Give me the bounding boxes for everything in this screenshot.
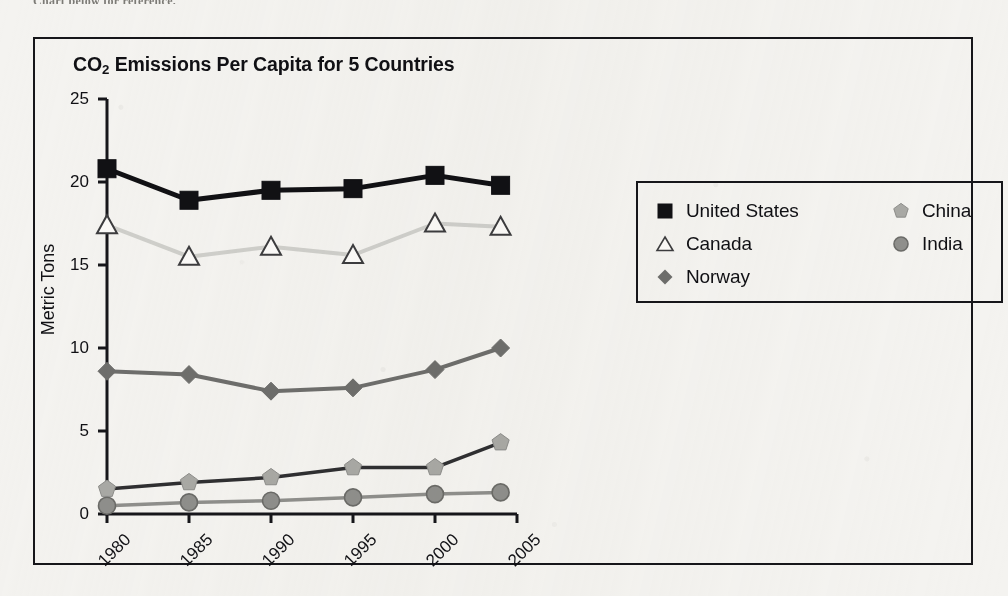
chart-legend: United StatesCanadaNorway ChinaIndia: [636, 181, 1003, 303]
data-point-marker: [262, 181, 280, 199]
legend-item-label: China: [922, 200, 971, 222]
square-marker-icon: [262, 181, 280, 199]
y-axis-tick-label: 10: [70, 338, 89, 358]
circle-marker-icon: [263, 492, 280, 509]
data-point-marker: [180, 366, 198, 384]
data-point-marker: [181, 494, 198, 511]
filled-square-marker-icon: [654, 200, 676, 222]
data-point-marker: [345, 489, 362, 506]
series-markers-china: [98, 434, 509, 497]
circle-marker-icon: [181, 494, 198, 511]
legend-column-right: ChinaIndia: [890, 194, 971, 260]
data-point-marker: [180, 473, 197, 489]
data-point-marker: [97, 215, 117, 233]
data-point-marker: [344, 459, 361, 475]
legend-column-left: United StatesCanadaNorway: [654, 194, 799, 293]
triangle-marker-icon: [97, 215, 117, 233]
data-point-marker: [263, 492, 280, 509]
square-marker-icon: [426, 166, 444, 184]
data-point-marker: [99, 497, 116, 514]
legend-item-label: Canada: [686, 233, 752, 255]
chart-axes: [107, 99, 517, 514]
diamond-marker-icon: [492, 339, 510, 357]
pentagon-marker-icon: [262, 468, 279, 484]
diamond-marker-icon: [426, 361, 444, 379]
y-axis-tick-label: 20: [70, 172, 89, 192]
y-axis-tick-label: 0: [80, 504, 89, 524]
data-point-marker: [426, 166, 444, 184]
y-axis-tick-label: 15: [70, 255, 89, 275]
diamond-marker-icon: [262, 382, 280, 400]
pentagon-marker-icon: [344, 459, 361, 475]
diamond-marker-icon: [344, 379, 362, 397]
circle-marker-icon: [427, 486, 444, 503]
series-markers-canada: [97, 214, 511, 265]
scanned-page: Chart below for reference. CO2 Emissions…: [0, 0, 1008, 596]
legend-item-label: India: [922, 233, 963, 255]
filled-circle-marker-icon: [890, 233, 912, 255]
data-point-marker: [98, 362, 116, 380]
legend-item: India: [890, 227, 971, 260]
series-markers-united-states: [98, 160, 510, 210]
filled-diamond-marker-icon: [654, 266, 676, 288]
legend-item: Norway: [654, 260, 799, 293]
data-point-marker: [344, 180, 362, 198]
chart-plot-area: [35, 39, 975, 567]
chart-outer-frame: CO2 Emissions Per Capita for 5 Countries…: [33, 37, 973, 565]
y-axis-tick-label: 25: [70, 89, 89, 109]
data-point-marker: [426, 361, 444, 379]
legend-item: China: [890, 194, 971, 227]
data-point-marker: [492, 176, 510, 194]
pentagon-marker-icon: [492, 434, 509, 450]
circle-marker-icon: [99, 497, 116, 514]
diamond-marker-icon: [180, 366, 198, 384]
data-point-marker: [98, 160, 116, 178]
pentagon-marker-icon: [180, 473, 197, 489]
filled-pentagon-marker-icon: [890, 200, 912, 222]
pentagon-marker-icon: [98, 480, 115, 496]
square-marker-icon: [180, 191, 198, 209]
legend-item: Canada: [654, 227, 799, 260]
data-point-marker: [492, 339, 510, 357]
diamond-marker-icon: [98, 362, 116, 380]
open-triangle-marker-icon: [654, 233, 676, 255]
data-point-marker: [98, 480, 115, 496]
square-marker-icon: [492, 176, 510, 194]
data-point-marker: [492, 484, 509, 501]
circle-marker-icon: [345, 489, 362, 506]
y-axis-title: Metric Tons: [38, 244, 59, 336]
data-point-marker: [180, 191, 198, 209]
circle-marker-icon: [492, 484, 509, 501]
legend-item-label: Norway: [686, 266, 750, 288]
square-marker-icon: [98, 160, 116, 178]
data-point-marker: [344, 379, 362, 397]
data-point-marker: [426, 459, 443, 475]
y-axis-tick-label: 5: [80, 421, 89, 441]
data-point-marker: [262, 468, 279, 484]
legend-item-label: United States: [686, 200, 799, 222]
data-point-marker: [427, 486, 444, 503]
legend-item: United States: [654, 194, 799, 227]
data-point-marker: [492, 434, 509, 450]
cut-off-header-text: Chart below for reference.: [33, 0, 333, 4]
data-point-marker: [262, 382, 280, 400]
pentagon-marker-icon: [426, 459, 443, 475]
square-marker-icon: [344, 180, 362, 198]
